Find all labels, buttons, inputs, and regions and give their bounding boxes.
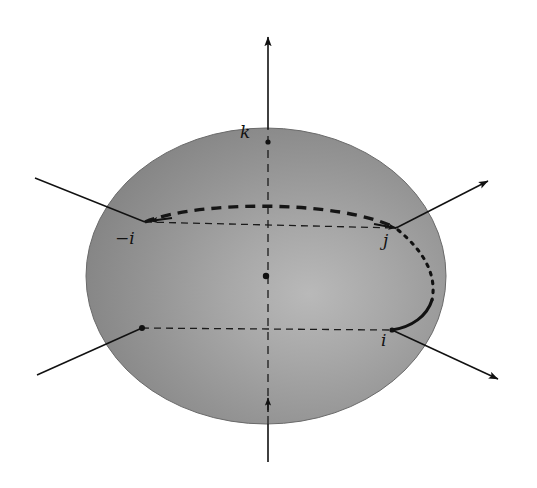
sphere-diagram: k −i j i	[0, 0, 537, 488]
label-k: k	[240, 124, 250, 141]
point-minus-j	[139, 325, 145, 331]
label-minus-i: −i	[115, 230, 135, 247]
label-i: i	[381, 332, 386, 349]
label-j: j	[383, 232, 388, 249]
point-k	[265, 139, 270, 144]
point-center	[263, 273, 269, 279]
point-i	[389, 327, 394, 332]
diagram-canvas	[0, 0, 537, 488]
